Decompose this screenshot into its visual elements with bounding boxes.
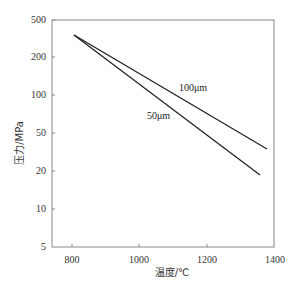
y-tick-label: 20 [36, 165, 46, 176]
y-tick-label: 200 [31, 51, 46, 62]
series-line-100um [74, 35, 267, 149]
x-axis-label: 温度/℃ [155, 266, 190, 278]
y-tick-label: 10 [36, 203, 46, 214]
x-tick-labels: 800 1000 1200 1400 [65, 254, 286, 265]
y-tick-label: 50 [36, 127, 46, 138]
y-axis-label: 压力/MPa [13, 121, 25, 165]
series-label-100um: 100μm [179, 82, 207, 93]
series-label-50um: 50μm [147, 110, 170, 121]
x-tick-label: 1400 [265, 254, 285, 265]
y-tick-label: 100 [31, 89, 46, 100]
y-tick-labels: 500 200 100 50 20 10 5 [31, 14, 46, 252]
y-tick-label: 500 [31, 14, 46, 25]
x-tick-label: 1200 [197, 254, 217, 265]
series-line-50um [74, 35, 260, 175]
x-tick-label: 1000 [129, 254, 149, 265]
line-chart: 500 200 100 50 20 10 5 800 1000 1200 140… [0, 0, 299, 292]
x-tick-label: 800 [65, 254, 80, 265]
y-tick-label: 5 [41, 241, 46, 252]
